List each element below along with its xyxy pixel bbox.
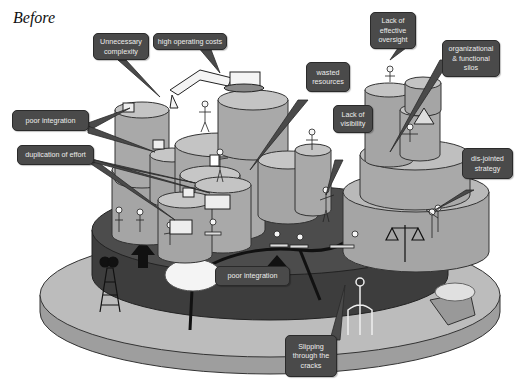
- callout-lack-of-effective-oversight: Lack of effective oversight: [370, 12, 416, 49]
- callout-organizational-functional-silos: organizational & functional silos: [442, 40, 500, 77]
- callout-poor-integration-bottom: poor integration: [215, 266, 290, 286]
- middle-cylinders: [258, 144, 331, 224]
- callout-slipping-through-the-cracks: Slipping through the cracks: [285, 335, 337, 377]
- callout-high-operating-costs: high operating costs: [153, 33, 227, 50]
- callout-duplication-of-effort: duplication of effort: [17, 145, 94, 165]
- callout-unnecessary-complexity: Unnecessary complexity: [93, 33, 149, 60]
- callout-dis-jointed-strategy: dis-jointed strategy: [462, 148, 513, 179]
- info-sign-icon: [210, 155, 219, 166]
- callout-wasted-resources: wasted resources: [306, 62, 350, 92]
- callout-poor-integration-top: poor integration: [12, 110, 89, 131]
- callout-lack-of-visibility: Lack of visibility: [333, 105, 373, 133]
